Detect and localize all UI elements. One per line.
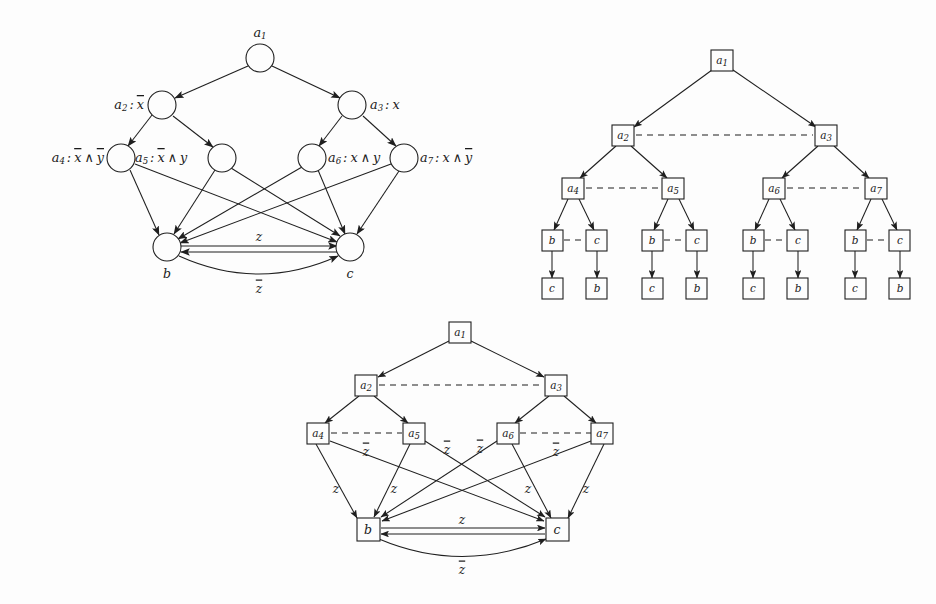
edge-tr-a3-a7 <box>834 146 869 178</box>
node-a1[interactable] <box>246 44 274 72</box>
edge-a7-c <box>357 171 399 234</box>
label-tr-c4-leaf: c <box>852 282 858 294</box>
label-tr-b2-leaf: b <box>694 282 701 294</box>
label-a6: a6:x∧y <box>328 150 381 166</box>
edge-label-zbar-bottom: z <box>255 282 263 296</box>
label-tr-b4-leaf: b <box>897 282 904 294</box>
label-tr-c2-leaf: c <box>649 282 655 294</box>
label-tr-c3: c <box>795 234 801 246</box>
node-a3[interactable] <box>338 91 366 119</box>
edge-b-c-zbar-arc <box>179 256 338 274</box>
edge-label-bt-z-1: z <box>332 482 340 496</box>
node-a5[interactable] <box>208 144 236 172</box>
label-a2: a2:x <box>114 97 144 113</box>
edge-a5-c <box>231 168 340 236</box>
edge-label-bt-z-4: z <box>582 482 590 496</box>
edge-a4-b <box>130 170 159 235</box>
edge-a4-c <box>135 164 337 242</box>
edge-a2-a5 <box>173 116 213 147</box>
label-a1: a1 <box>253 25 266 41</box>
node-a4[interactable] <box>107 144 135 172</box>
edge-bt-a2-a4 <box>325 396 359 423</box>
edge-tr-a5-c2 <box>679 199 694 230</box>
edge-bt-a3-a6 <box>515 396 549 423</box>
edge-tr-a4-b1 <box>554 199 568 230</box>
label-tr-c2: c <box>694 234 700 246</box>
edge-label-bt-zbar-2: z <box>443 443 451 457</box>
panel-bottom-nodes: a1 a2 a3 a4 a5 a6 a7 b c <box>307 322 613 541</box>
edge-tr-a7-c4 <box>882 199 897 230</box>
edge-tr-a3-a6 <box>782 146 818 178</box>
edge-tr-a6-b3 <box>755 199 769 230</box>
edge-bt-a1-a2 <box>378 341 449 377</box>
figure-root: a1 a2:x a3:x a4:x∧y a5:x∧y <box>0 0 936 604</box>
edge-bt-a5-b <box>374 444 410 517</box>
label-bt-c: c <box>553 522 560 537</box>
label-tr-b3-leaf: b <box>795 282 802 294</box>
label-tr-b1: b <box>549 234 556 246</box>
edge-a3-a6 <box>319 116 342 146</box>
combined-graph-figure: a1 a2:x a3:x a4:x∧y a5:x∧y <box>0 0 936 604</box>
node-a6[interactable] <box>298 144 326 172</box>
edge-bt-a3-a7 <box>564 396 596 423</box>
edge-bt-b-c-zbar-arc <box>379 539 546 557</box>
edge-tr-a1-a2 <box>634 70 712 127</box>
label-tr-c1-leaf: c <box>549 282 555 294</box>
node-a7[interactable] <box>390 144 418 172</box>
label-tr-b4: b <box>852 234 859 246</box>
panel-bottom: a1 a2 a3 a4 a5 a6 a7 b c z z <box>307 322 613 577</box>
edge-label-bt-zbar-3: z <box>476 442 484 456</box>
panel-top-left: a1 a2:x a3:x a4:x∧y a5:x∧y <box>52 25 473 296</box>
edge-label-bt-z-2: z <box>390 482 398 496</box>
label-tr-c1: c <box>594 234 600 246</box>
edge-label-bt-zbar-bc: z <box>458 563 466 577</box>
edge-a6-b <box>178 167 302 239</box>
label-tr-b1-leaf: b <box>594 282 601 294</box>
edge-a1-a2 <box>175 66 248 98</box>
edge-a2-a4 <box>128 115 152 146</box>
edge-tr-a7-b4 <box>857 199 871 230</box>
edge-bt-a1-a3 <box>471 341 544 377</box>
label-c: c <box>346 266 353 281</box>
edge-tr-a2-a5 <box>631 146 667 178</box>
edge-label-bt-zbar-4: z <box>552 445 560 459</box>
label-tr-c3-leaf: c <box>750 282 756 294</box>
edge-tr-a5-b2 <box>654 199 668 230</box>
edge-a5-b <box>174 170 215 234</box>
edge-tr-a6-c3 <box>780 199 795 230</box>
label-a7: a7:x∧y <box>420 150 473 166</box>
edge-label-bt-z-bc: z <box>458 513 466 527</box>
edge-bt-a2-a5 <box>374 396 408 423</box>
edge-tr-a4-c1 <box>579 199 594 230</box>
edge-bt-a7-b <box>382 441 591 521</box>
edge-a3-a7 <box>363 116 396 146</box>
node-c[interactable] <box>336 233 364 261</box>
node-b[interactable] <box>153 233 181 261</box>
label-tr-c4: c <box>897 234 903 246</box>
edge-tr-a1-a3 <box>733 70 816 127</box>
edge-tr-a2-a4 <box>580 146 616 178</box>
label-a5: a5:x∧y <box>135 150 188 166</box>
label-bt-b: b <box>364 522 372 537</box>
label-tr-b3: b <box>750 234 757 246</box>
panel-top-right: a1 a2 a3 a4 a5 a6 a7 b c <box>542 50 910 299</box>
edge-label-z-top: z <box>255 230 263 244</box>
edge-bt-a6-c <box>512 444 551 518</box>
label-a3: a3:x <box>370 97 400 113</box>
node-a2[interactable] <box>148 91 176 119</box>
label-b: b <box>163 266 171 281</box>
label-tr-b2: b <box>649 234 656 246</box>
edge-a1-a3 <box>272 66 340 98</box>
label-a4: a4:x∧y <box>52 150 105 166</box>
edge-label-bt-z-3: z <box>524 482 532 496</box>
edge-label-bt-zbar-1: z <box>362 445 370 459</box>
